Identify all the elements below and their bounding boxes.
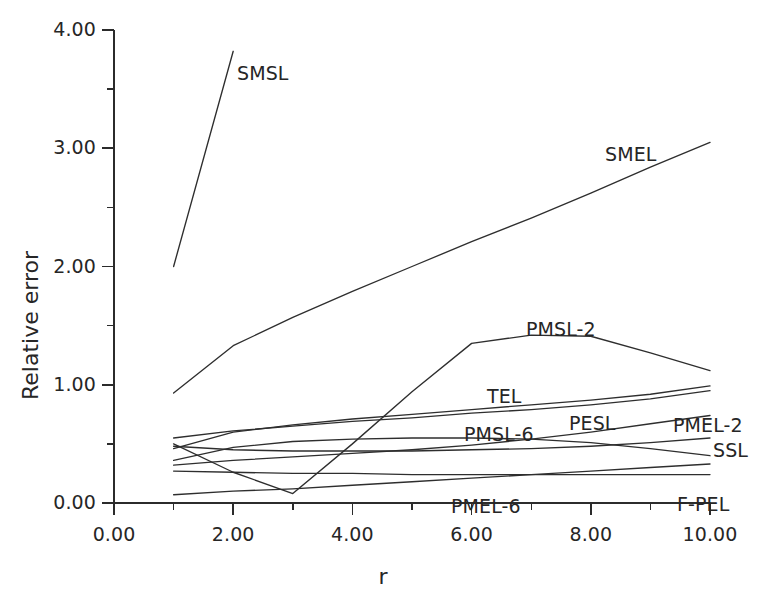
series-label-tel: TEL bbox=[487, 385, 522, 407]
series-line-ssl bbox=[174, 438, 710, 451]
series-label-smel: SMEL bbox=[605, 143, 656, 165]
x-tick-label: 0.00 bbox=[64, 523, 164, 545]
series-label-pmsl-2: PMSL-2 bbox=[526, 318, 596, 340]
x-tick-label: 4.00 bbox=[302, 523, 402, 545]
plot-area bbox=[0, 0, 766, 609]
x-tick-label: 2.00 bbox=[183, 523, 283, 545]
y-tick-label: 3.00 bbox=[0, 136, 96, 158]
series-line-pmel-2 bbox=[174, 416, 710, 466]
series-line-smsl bbox=[174, 51, 234, 266]
axes-group bbox=[102, 30, 710, 515]
series-group bbox=[174, 51, 710, 503]
series-label-pesl: PESL bbox=[569, 412, 616, 434]
y-tick-label: 2.00 bbox=[0, 255, 96, 277]
relative-error-chart: 0.001.002.003.004.00 0.002.004.006.008.0… bbox=[0, 0, 766, 609]
y-tick-label: 4.00 bbox=[0, 18, 96, 40]
series-label-ssl: SSL bbox=[713, 439, 748, 461]
series-label-smsl: SMSL bbox=[237, 62, 289, 84]
y-axis-title: Relative error bbox=[18, 251, 43, 400]
y-tick-label: 1.00 bbox=[0, 373, 96, 395]
series-line-tel bbox=[174, 386, 710, 449]
x-tick-label: 10.00 bbox=[660, 523, 760, 545]
series-line-pmsl-2 bbox=[174, 335, 710, 493]
y-tick-label: 0.00 bbox=[0, 491, 96, 513]
series-line-pmsl-6 bbox=[174, 438, 710, 460]
series-label-f-pel: F-PEL bbox=[677, 493, 729, 515]
series-label-pmel-6: PMEL-6 bbox=[451, 495, 521, 517]
series-label-pmel-2: PMEL-2 bbox=[673, 414, 743, 436]
x-tick-label: 6.00 bbox=[422, 523, 522, 545]
series-line-f-pel bbox=[174, 471, 710, 475]
series-line-pesl bbox=[174, 391, 710, 438]
series-label-pmsl-6: PMSL-6 bbox=[464, 423, 534, 445]
x-axis-title: r bbox=[0, 564, 766, 589]
x-tick-label: 8.00 bbox=[541, 523, 641, 545]
series-line-smel bbox=[174, 142, 710, 393]
